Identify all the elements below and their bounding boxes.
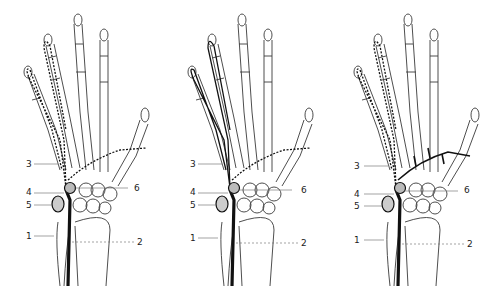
hamate-hook-marker — [65, 183, 76, 194]
label-1: 1 — [354, 236, 360, 245]
label-1: 1 — [26, 232, 32, 241]
label-1: 1 — [190, 234, 196, 243]
label-6: 6 — [464, 186, 470, 195]
panel-2: 3 4 5 1 2 6 — [164, 0, 330, 286]
pisiform-marker — [52, 196, 64, 212]
label-5: 5 — [190, 201, 196, 210]
label-2: 2 — [301, 239, 307, 248]
label-3: 3 — [354, 162, 360, 171]
label-4: 4 — [354, 190, 360, 199]
label-3: 3 — [26, 160, 32, 169]
label-3: 3 — [190, 160, 196, 169]
label-2: 2 — [137, 238, 143, 247]
label-5: 5 — [26, 201, 32, 210]
label-6: 6 — [301, 186, 307, 195]
label-6: 6 — [134, 184, 140, 193]
panel-1: 3 4 5 1 2 6 — [0, 0, 166, 286]
label-4: 4 — [26, 188, 32, 197]
label-5: 5 — [354, 202, 360, 211]
label-2: 2 — [467, 240, 473, 249]
label-4: 4 — [190, 188, 196, 197]
hand-nerve-figure: 3 4 5 1 2 6 — [0, 0, 500, 286]
panel-3: 3 4 5 1 2 6 — [330, 0, 496, 286]
